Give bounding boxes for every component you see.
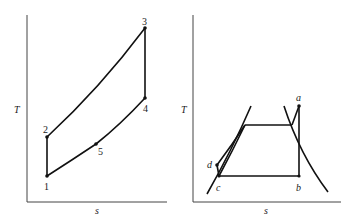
point-label-3: 3 <box>142 16 147 27</box>
point-b <box>297 174 300 177</box>
point-label-a: a <box>296 92 301 103</box>
point-label-b: b <box>296 182 301 193</box>
superheat-segment <box>292 106 299 125</box>
left-ts-diagram: 3 4 2 5 1 T s <box>14 15 167 216</box>
saturated-vapor-line <box>284 106 328 192</box>
point-d <box>215 163 219 167</box>
right-ts-diagram: a b c d T s <box>181 15 341 216</box>
thermodynamic-ts-diagrams: 3 4 2 5 1 T s a b c d <box>0 0 356 222</box>
process-4-5-1 <box>47 98 145 176</box>
left-x-axis-label: s <box>95 205 99 216</box>
left-y-axis-label: T <box>14 104 21 115</box>
point-a <box>297 104 301 108</box>
point-label-5: 5 <box>98 146 103 157</box>
process-d-heating <box>217 125 245 165</box>
point-1 <box>45 174 49 178</box>
right-x-axis-label: s <box>264 205 268 216</box>
process-c-heating <box>219 125 245 176</box>
point-c <box>217 174 220 177</box>
point-2 <box>45 135 49 139</box>
point-label-2: 2 <box>43 124 48 135</box>
point-label-1: 1 <box>44 181 49 192</box>
point-label-4: 4 <box>143 103 148 114</box>
right-y-axis-label: T <box>181 104 188 115</box>
process-2-3 <box>47 28 145 137</box>
point-4 <box>143 96 147 100</box>
point-label-d: d <box>207 159 213 170</box>
saturated-liquid-line <box>207 106 251 194</box>
point-label-c: c <box>216 182 221 193</box>
